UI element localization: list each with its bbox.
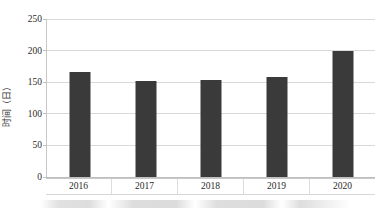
y-tick-label: 100 [14,109,42,119]
bar-slot [47,19,113,177]
x-tick-label: 2018 [178,179,244,194]
clipped-caption-band [40,200,350,208]
y-axis-title: 时间（日） [0,58,14,150]
x-tick-label: 2017 [112,179,178,194]
bars-layer [47,19,375,177]
y-tick-label: 0 [14,172,42,182]
y-axis-tick-labels: 250 200 150 100 50 0 [14,14,44,178]
y-tick-label: 50 [14,140,42,150]
bar-slot [310,19,376,177]
bar-chart: 时间（日） 250 200 150 100 50 0 2016 2017 201… [0,0,390,211]
bar-slot [179,19,245,177]
bar[interactable] [69,72,90,177]
bar[interactable] [201,80,222,177]
x-axis-tick-labels: 2016 2017 2018 2019 2020 [46,178,375,195]
bar[interactable] [333,51,354,177]
y-axis-title-text: 时间（日） [3,82,12,127]
bar-slot [113,19,179,177]
y-tick-label: 250 [14,14,42,24]
x-tick-label: 2016 [46,179,112,194]
plot-area [46,19,375,177]
bar[interactable] [135,81,156,177]
x-tick-label: 2020 [310,179,375,194]
x-tick-label: 2019 [244,179,310,194]
bar[interactable] [267,77,288,177]
y-tick-label: 200 [14,46,42,56]
bar-slot [244,19,310,177]
y-tick-label: 150 [14,77,42,87]
